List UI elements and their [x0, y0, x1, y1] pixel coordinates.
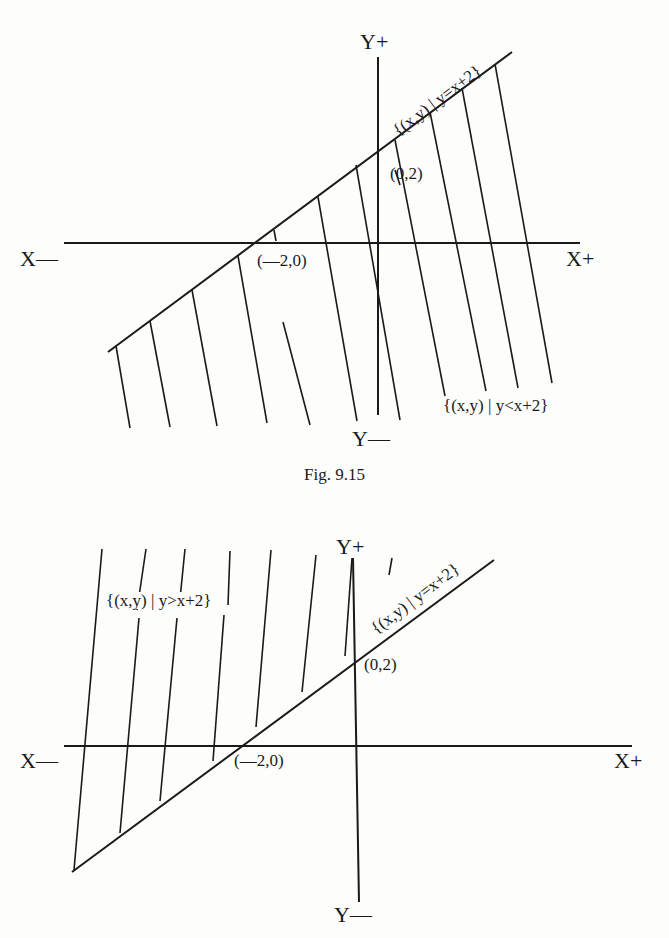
- y-axis: [353, 558, 359, 902]
- figure-2-graph: [0, 0, 669, 938]
- region-label: {(x,y) | y>x+2}: [106, 592, 211, 609]
- x-intercept-label: (—2,0): [234, 752, 284, 769]
- x-negative-label: X—: [20, 750, 58, 772]
- y-intercept-label: (0,2): [364, 656, 397, 673]
- x-positive-label: X+: [614, 750, 642, 772]
- y-negative-label: Y—: [334, 904, 372, 926]
- y-positive-label: Y+: [336, 536, 364, 558]
